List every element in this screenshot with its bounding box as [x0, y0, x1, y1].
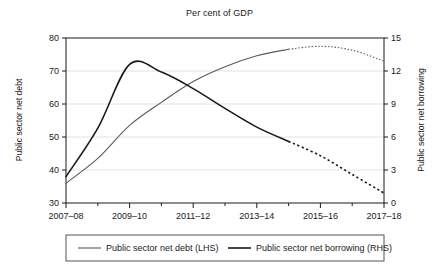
y-axis-right-label: Public sector net borrowing	[416, 68, 426, 172]
x-tick-label: 2017–18	[366, 211, 401, 221]
chart-plot-svg: 304050607080 03691215 2007–082009–102011…	[0, 0, 439, 271]
y-tick-label-right: 15	[391, 33, 401, 43]
y-axis-right-ticks: 03691215	[384, 33, 401, 208]
chart-legend: Public sector net debt (LHS)Public secto…	[66, 235, 392, 261]
x-axis-ticks: 2007–082009–102011–122013–142015–162017–…	[48, 203, 401, 221]
chart-container: Per cent of GDP 304050607080 03691215 20…	[0, 0, 439, 271]
series-line-debt-forecast	[289, 46, 384, 61]
series-line-debt-actual	[66, 49, 289, 183]
y-tick-label-left: 80	[49, 33, 59, 43]
x-tick-label: 2011–12	[176, 211, 210, 221]
series-line-borrowing-forecast	[289, 141, 384, 193]
x-tick-label: 2007–08	[48, 211, 83, 221]
y-axis-left-label: Public sector net debt	[14, 78, 24, 161]
y-tick-label-left: 50	[49, 132, 59, 142]
x-tick-label: 2009–10	[112, 211, 147, 221]
y-tick-label-right: 0	[391, 198, 396, 208]
legend-label-debt: Public sector net debt (LHS)	[106, 243, 219, 253]
plot-frame	[66, 38, 384, 203]
gridlines-group	[66, 71, 384, 170]
x-tick-label: 2013–14	[239, 211, 274, 221]
y-tick-label-right: 6	[391, 132, 396, 142]
y-tick-label-left: 40	[49, 165, 59, 175]
y-tick-label-right: 12	[391, 66, 401, 76]
y-tick-label-left: 60	[49, 99, 59, 109]
y-tick-label-right: 3	[391, 165, 396, 175]
y-tick-label-left: 30	[49, 198, 59, 208]
series-line-borrowing-actual	[66, 61, 289, 177]
y-axis-left-ticks: 304050607080	[49, 33, 66, 208]
series-lines-group	[66, 46, 384, 193]
y-tick-label-right: 9	[391, 99, 396, 109]
legend-label-borrowing: Public sector net borrowing (RHS)	[256, 243, 392, 253]
x-tick-label: 2015–16	[303, 211, 338, 221]
y-tick-label-left: 70	[49, 66, 59, 76]
